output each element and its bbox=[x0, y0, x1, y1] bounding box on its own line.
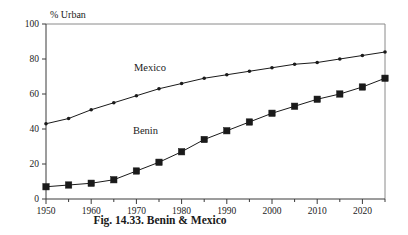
data-point bbox=[338, 57, 342, 61]
y-tick-label: 20 bbox=[30, 159, 40, 169]
data-point bbox=[65, 182, 71, 188]
x-tick-label: 2010 bbox=[308, 206, 327, 216]
series-label-benin: Benin bbox=[133, 125, 159, 136]
data-series-group bbox=[43, 50, 388, 190]
data-point bbox=[224, 128, 230, 134]
series-mexico bbox=[44, 50, 387, 125]
plot-frame bbox=[46, 24, 385, 199]
y-tick-label-group: 020406080100 bbox=[25, 19, 40, 204]
data-point bbox=[156, 159, 162, 165]
data-point bbox=[43, 184, 49, 190]
data-point bbox=[269, 110, 275, 116]
figure-caption: Fig. 14.33. Benin & Mexico bbox=[93, 214, 226, 227]
data-point bbox=[135, 94, 139, 98]
data-point bbox=[157, 87, 161, 91]
data-point bbox=[315, 61, 319, 65]
series-path bbox=[46, 78, 385, 187]
figure-container: 020406080100 195019601970198019902000201… bbox=[0, 0, 408, 235]
data-point bbox=[383, 50, 387, 54]
series-label-mexico: Mexico bbox=[134, 62, 166, 73]
data-point bbox=[270, 66, 274, 70]
data-point bbox=[89, 108, 93, 112]
x-tick-label: 1950 bbox=[37, 206, 56, 216]
data-point bbox=[361, 54, 365, 58]
data-point bbox=[382, 75, 388, 81]
data-point bbox=[67, 117, 71, 121]
x-tick-label: 2020 bbox=[353, 206, 372, 216]
y-tick-group bbox=[42, 24, 46, 199]
y-tick-label: 40 bbox=[30, 124, 40, 134]
data-point bbox=[359, 84, 365, 90]
data-point bbox=[201, 136, 207, 142]
data-point bbox=[225, 73, 229, 77]
data-point bbox=[180, 82, 184, 86]
data-point bbox=[111, 177, 117, 183]
data-point bbox=[178, 149, 184, 155]
data-point bbox=[293, 62, 297, 66]
y-tick-label: 0 bbox=[34, 194, 39, 204]
y-tick-label: 60 bbox=[30, 89, 40, 99]
y-axis-title: % Urban bbox=[50, 9, 86, 20]
data-point bbox=[133, 168, 139, 174]
urbanization-line-chart: 020406080100 195019601970198019902000201… bbox=[0, 0, 408, 235]
data-point bbox=[337, 91, 343, 97]
data-point bbox=[88, 180, 94, 186]
data-point bbox=[248, 69, 252, 73]
data-point bbox=[246, 119, 252, 125]
series-benin bbox=[43, 75, 388, 190]
series-path bbox=[46, 52, 385, 124]
y-tick-label: 80 bbox=[30, 54, 40, 64]
x-tick-label: 2000 bbox=[263, 206, 282, 216]
data-point bbox=[112, 101, 116, 105]
x-tick-group bbox=[46, 199, 385, 204]
data-point bbox=[44, 122, 48, 126]
data-point bbox=[314, 96, 320, 102]
y-tick-label: 100 bbox=[25, 19, 40, 29]
data-point bbox=[202, 76, 206, 80]
data-point bbox=[291, 103, 297, 109]
